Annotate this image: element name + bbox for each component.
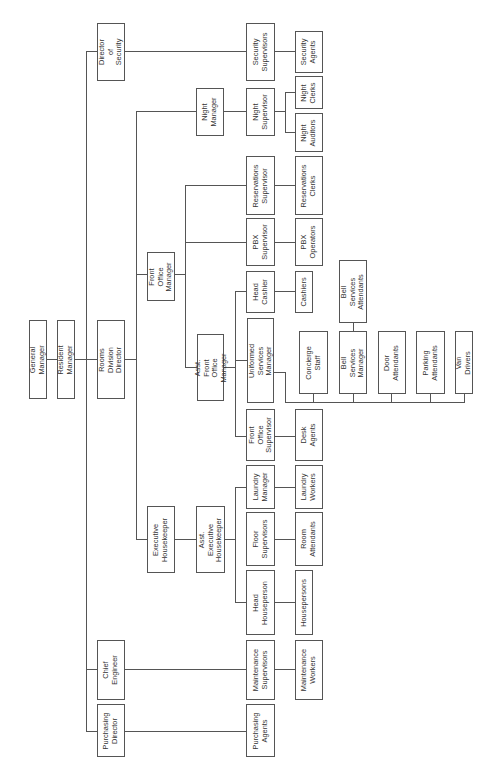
connector-line-horizontal [185,242,246,243]
org-node-security-supervisors: Security Supervisors [246,23,275,81]
org-node-head-houseperson: Head Houseperson [246,570,275,635]
org-node-label: Room Attendants [300,521,317,556]
connector-line-horizontal [124,731,246,732]
org-node-director-of-security: Director of Security [97,23,125,81]
connector-line-vertical [353,393,354,403]
connector-line-horizontal [136,274,147,275]
connector-line-horizontal [274,291,295,292]
org-node-label: Front Office Manager [148,262,174,291]
org-node-night-auditors: Night Auditors [295,113,323,152]
org-node-cashiers: Cashiers [295,271,313,313]
org-node-uniformed-services-manager: Uniformed Services Manager [247,318,274,403]
org-node-label: Bell Services Manager [340,348,366,377]
connector-line-horizontal [274,539,295,540]
org-node-label: Laundry Workers [300,473,317,500]
org-node-night-clerks: Night Clerks [295,76,323,109]
org-node-maintenance-supervisors: Maintenance Supervisors [246,640,275,700]
connector-line-horizontal [223,111,246,112]
connector-line-horizontal [174,274,185,275]
org-node-label: Parking Attendants [422,345,439,380]
org-node-concierge-staff: Concierge Staff [299,331,328,394]
org-node-label: Door Attendants [383,345,400,380]
org-node-pbx-supervisor: PBX Supervisor [246,218,275,266]
org-node-label: Resident Manager [57,345,74,374]
connector-line-vertical [235,291,236,437]
org-node-security-agents: Security Agents [295,31,323,73]
org-node-asst-executive-housekeeper: Asst. Executive Housekeeper [196,506,225,573]
org-node-reservations-clerks: Reservations Clerks [295,156,323,215]
connector-line-horizontal [285,402,464,403]
org-node-label: Director of Security [98,39,124,66]
org-node-parking-attendants: Parking Attendants [416,331,445,394]
org-node-pbx-operators: PBX Operators [295,218,323,266]
org-node-label: Cashiers [300,277,309,306]
org-node-front-office-manager: Front Office Manager [147,252,175,301]
org-node-bell-services-attendants: Bell Services Attendants [339,260,367,323]
org-node-label: Purchasing Director [102,712,119,749]
org-node-resident-manager: Resident Manager [57,320,75,399]
org-node-chief-engineer: Chief Engineer [97,640,125,700]
connector-line-horizontal [224,539,235,540]
connector-line-vertical [235,487,236,603]
connector-line-horizontal [285,92,295,93]
org-node-label: Purchasing Agents [252,712,269,749]
connector-line-horizontal [174,539,196,540]
connector-line-horizontal [136,539,147,540]
org-node-label: Security Supervisors [252,32,269,71]
connector-line-horizontal [86,51,97,52]
connector-line-horizontal [235,360,247,361]
org-node-laundry-workers: Laundry Workers [295,465,323,509]
org-node-van-drivers: Van Drivers [455,331,473,394]
connector-line-horizontal [86,669,97,670]
connector-line-horizontal [185,185,246,186]
connector-line-horizontal [274,487,295,488]
connector-line-horizontal [274,602,295,603]
connector-line-vertical [391,393,392,403]
org-node-label: Uniformed Services Manager [248,343,274,377]
org-node-reservations-supervisor: Reservations Supervisor [246,156,275,215]
connector-line-vertical [464,393,465,403]
connector-line-horizontal [235,291,246,292]
org-node-executive-housekeeper: Executive Housekeeper [147,506,175,573]
org-node-label: Night Manager [201,97,218,126]
connector-line-horizontal [274,242,295,243]
org-node-label: PBX Supervisor [252,224,269,259]
connector-line-horizontal [86,731,97,732]
org-node-label: Maintenance Workers [300,649,317,691]
connector-line-horizontal [235,602,246,603]
org-node-front-office-supervisor: Front Office Supervisor [246,409,275,461]
connector-line-horizontal [235,487,246,488]
connector-line-horizontal [274,669,295,670]
org-node-label: Executive Housekeeper [152,518,169,562]
org-node-label: Floor Supervisors [252,519,269,558]
org-node-label: Night Supervisor [252,94,269,129]
org-node-laundry-manager: Laundry Manager [246,465,275,509]
org-node-label: Chief Engineer [102,655,119,685]
connector-line-vertical [285,372,286,403]
org-node-label: Maintenance Supervisors [252,649,269,691]
org-node-label: Reservations Clerks [300,164,317,207]
connector-line-vertical [285,92,286,133]
org-node-label: Head Houseperson [252,581,269,625]
org-node-label: Night Auditors [300,119,317,146]
org-node-room-attendants: Room Attendants [295,512,323,566]
org-node-maintenance-workers: Maintenance Workers [295,640,323,700]
connector-line-horizontal [274,185,295,186]
org-node-desk-agents: Desk Agents [295,409,323,461]
org-node-night-manager: Night Manager [196,88,224,136]
org-node-head-cashier: Head Cashier [246,271,275,313]
connector-line-horizontal [124,669,246,670]
org-node-night-supervisor: Night Supervisor [246,88,275,136]
org-node-label: Van Drivers [455,351,472,374]
org-node-purchasing-agents: Purchasing Agents [246,704,275,757]
connector-line-horizontal [124,359,136,360]
connector-line-vertical [136,111,137,540]
org-node-label: Rooms Division Director [98,347,124,373]
connector-line-horizontal [273,372,285,373]
connector-line-horizontal [124,51,246,52]
connector-line-vertical [86,51,87,732]
org-node-rooms-division-director: Rooms Division Director [97,320,125,399]
connector-line-horizontal [274,51,295,52]
org-node-label: Security Agents [300,39,317,66]
org-node-label: Housepersons [300,579,309,627]
